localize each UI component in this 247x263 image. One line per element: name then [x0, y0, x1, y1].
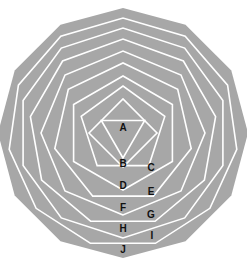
label-a: A: [119, 122, 126, 133]
label-j: J: [120, 244, 126, 255]
nested-polygons-diagram: ABCDEFGHIJ: [0, 0, 247, 263]
label-e: E: [148, 186, 155, 197]
label-d: D: [119, 180, 126, 191]
label-c: C: [147, 162, 154, 173]
label-h: H: [119, 223, 126, 234]
label-f: F: [120, 202, 126, 213]
label-i: I: [151, 230, 154, 241]
label-g: G: [147, 209, 155, 220]
label-b: B: [119, 158, 126, 169]
